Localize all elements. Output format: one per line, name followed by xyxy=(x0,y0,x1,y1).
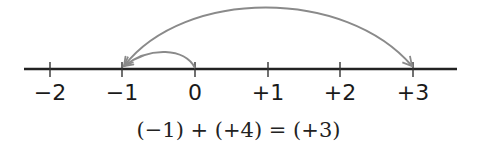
number-line-diagram: −2 −1 0 +1 +2 +3 (−1) + (+4) = (+3) xyxy=(0,0,477,153)
large-arc-arrow xyxy=(124,8,412,67)
tick-label-minus-1: −1 xyxy=(97,80,147,106)
equation-caption: (−1) + (+4) = (+3) xyxy=(0,116,477,144)
tick-label-plus-1: +1 xyxy=(243,80,293,106)
tick-label-minus-2: −2 xyxy=(25,80,75,106)
tick-label-plus-2: +2 xyxy=(315,80,365,106)
tick-label-zero: 0 xyxy=(170,80,220,106)
tick-label-plus-3: +3 xyxy=(388,80,438,106)
